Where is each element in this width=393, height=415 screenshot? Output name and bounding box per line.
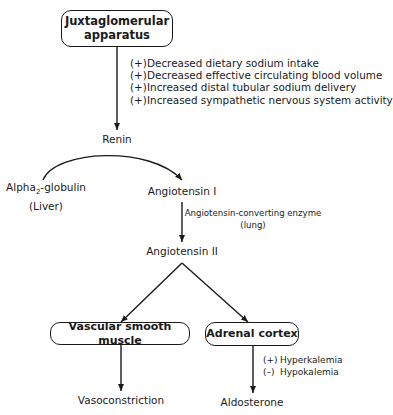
alpha2-globulin-node: Alpha2-globulin (Liver): [6, 180, 86, 213]
stimulus-item: (+)Increased distal tubular sodium deliv…: [130, 81, 393, 93]
aldosterone-modulators-list: (+)Hyperkalemia (–)Hypokalemia: [263, 354, 342, 378]
aldosterone-label: Aldosterone: [221, 396, 284, 408]
stimulus-item: (+)Decreased dietary sodium intake: [130, 57, 393, 69]
adrenal-label: Adrenal cortex: [206, 327, 297, 340]
angiotensin-ii-label: Angiotensin II: [146, 245, 218, 257]
jga-label-line2: apparatus: [84, 29, 150, 43]
liver-label: (Liver): [6, 199, 86, 213]
ace-label: Angiotensin-converting enzyme (lung): [185, 207, 322, 231]
modulator-item: (–)Hypokalemia: [263, 366, 342, 378]
angiotensin-i-label: Angiotensin I: [148, 185, 217, 197]
vascular-smooth-muscle-node: Vascular smooth muscle: [50, 322, 190, 345]
stimulus-item: (+)Decreased effective circulating blood…: [130, 69, 393, 81]
juxtaglomerular-apparatus-node: Juxtaglomerular apparatus: [61, 10, 173, 47]
jga-label-line1: Juxtaglomerular: [65, 15, 169, 29]
modulator-item: (+)Hyperkalemia: [263, 354, 342, 366]
adrenal-cortex-node: Adrenal cortex: [205, 322, 299, 346]
vasoconstriction-label: Vasoconstriction: [78, 394, 164, 406]
renin-label: Renin: [102, 133, 132, 145]
vsm-label: Vascular smooth muscle: [51, 320, 189, 346]
stimulus-item: (+)Increased sympathetic nervous system …: [130, 94, 393, 106]
renin-stimuli-list: (+)Decreased dietary sodium intake (+)De…: [130, 57, 393, 106]
